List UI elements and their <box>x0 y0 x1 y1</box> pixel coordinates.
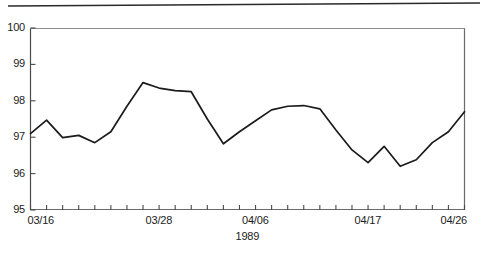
y-tick-label: 95 <box>1 204 25 215</box>
x-tick-label: 04/26 <box>441 215 468 226</box>
y-tick-label: 98 <box>1 95 25 106</box>
y-tick-label: 99 <box>1 58 25 69</box>
chart-figure: 9596979899100 03/1603/2804/0604/1704/26 … <box>0 0 488 258</box>
x-tick-label: 03/28 <box>146 215 173 226</box>
x-axis-title: 1989 <box>236 231 260 242</box>
y-tick-label: 96 <box>1 168 25 179</box>
data-series-line <box>31 83 465 167</box>
x-tick-label: 04/17 <box>355 215 382 226</box>
scan-line-artifact <box>8 3 480 6</box>
y-tick-label: 100 <box>1 22 25 33</box>
x-tick-label: 04/06 <box>242 215 269 226</box>
y-tick-marks <box>31 28 36 210</box>
y-tick-label: 97 <box>1 131 25 142</box>
x-tick-label: 03/16 <box>28 215 55 226</box>
